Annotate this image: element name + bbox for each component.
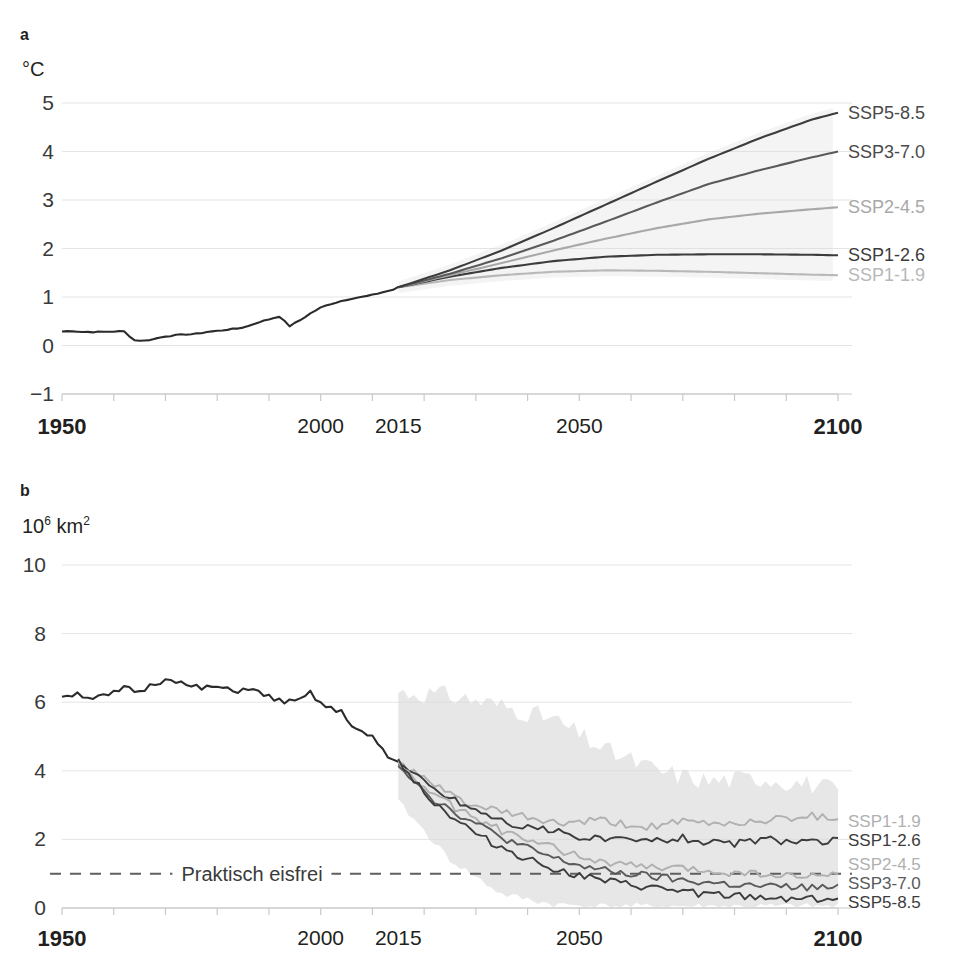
panel-a-series-label: SSP3-7.0 xyxy=(848,141,925,162)
panel-a-series-label: SSP1-2.6 xyxy=(848,245,925,266)
panel-b-series-label: SSP1-2.6 xyxy=(848,831,921,851)
ice-free-annotation: Praktisch eisfrei xyxy=(172,862,331,885)
climate-figure: a °C 543210−1 19502000201520502100 SSP5-… xyxy=(0,0,961,980)
panel-a-series-label: SSP1-1.9 xyxy=(848,265,925,286)
panel-b-series-label: SSP3-7.0 xyxy=(848,874,921,894)
panel-b-series-label: SSP1-1.9 xyxy=(848,812,921,832)
panel-a-series-label: SSP2-4.5 xyxy=(848,197,925,218)
panel-b-series-label: SSP2-4.5 xyxy=(848,855,921,875)
panel-a-temperature: a °C 543210−1 19502000201520502100 SSP5-… xyxy=(0,0,961,480)
panel-a-plot xyxy=(0,0,961,480)
panel-b-sea-ice: b 106 km2 1086420 19502000201520502100 P… xyxy=(0,470,961,980)
panel-b-plot xyxy=(0,470,961,980)
panel-a-series-label: SSP5-8.5 xyxy=(848,102,925,123)
panel-b-series-label: SSP5-8.5 xyxy=(848,893,921,913)
